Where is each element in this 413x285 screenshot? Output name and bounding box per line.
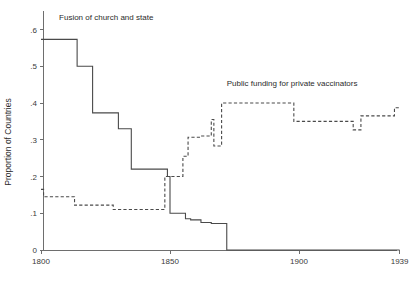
y-axis-ticks: 0.1.2.3.4.5.6 xyxy=(30,26,43,256)
x-tick-label: 1850 xyxy=(161,257,179,266)
y-tick-label: .3 xyxy=(30,136,37,145)
x-axis-ticks: 1800185019001939 xyxy=(32,250,409,266)
y-tick-label: .4 xyxy=(30,99,37,108)
chart-figure: 0.1.2.3.4.5.6 1800185019001939 Fusion of… xyxy=(0,0,413,285)
x-tick-label: 1900 xyxy=(290,257,308,266)
y-axis-title: Proportion of Countries xyxy=(3,98,13,185)
x-tick-label: 1800 xyxy=(32,257,50,266)
series-annotations: Fusion of church and statePublic funding… xyxy=(59,13,357,88)
y-tick-label: 0 xyxy=(33,246,38,255)
y-tick-label: .2 xyxy=(30,173,37,182)
data-line-solid xyxy=(41,39,400,250)
y-tick-label: .1 xyxy=(30,209,37,218)
chart-plot-area: 0.1.2.3.4.5.6 1800185019001939 Fusion of… xyxy=(0,0,413,285)
data-series-group xyxy=(41,39,400,250)
series-label: Public funding for private vaccinators xyxy=(227,79,358,88)
series-label: Fusion of church and state xyxy=(59,13,154,22)
y-tick-label: .6 xyxy=(30,26,37,35)
data-line-dashed xyxy=(41,103,400,210)
x-tick-label: 1939 xyxy=(391,257,409,266)
y-tick-label: .5 xyxy=(30,62,37,71)
